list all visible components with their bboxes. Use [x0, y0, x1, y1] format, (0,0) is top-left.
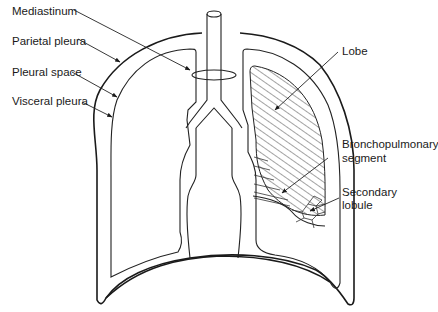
label-mediastinum: Mediastinum: [12, 5, 77, 17]
lung-diagram: Mediastinum Parietal pleura Pleural spac…: [0, 0, 438, 312]
label-parietal-pleura: Parietal pleura: [12, 35, 87, 47]
trachea: [186, 11, 242, 258]
label-bronchopulmonary-line2: segment: [342, 152, 387, 164]
label-pleural-space: Pleural space: [12, 66, 82, 78]
label-lobe: Lobe: [342, 45, 368, 57]
mediastinum-ring: [192, 70, 236, 80]
label-bronchopulmonary-line1: Bronchopulmonary: [342, 138, 438, 150]
label-secondary-lobule-line2: lobule: [342, 199, 373, 211]
label-visceral-pleura: Visceral pleura: [12, 95, 88, 107]
leader-lines-left: [72, 10, 190, 117]
label-secondary-lobule-line1: Secondary: [342, 186, 397, 198]
left-lung: [111, 49, 196, 277]
right-lung: [243, 49, 340, 288]
